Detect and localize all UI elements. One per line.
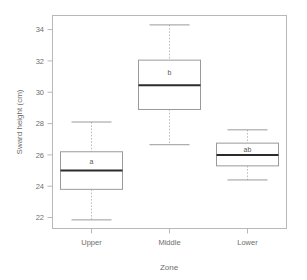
y-tick-label: 34 [36, 25, 44, 34]
y-axis-title: Sward height (cm) [15, 89, 24, 154]
boxplot-lower: ab [217, 130, 279, 180]
y-tick-label: 30 [36, 88, 44, 97]
boxplot-figure: 22242628303234 abab UpperMiddleLower Swa… [0, 0, 307, 280]
boxplot-middle: b [139, 25, 201, 145]
x-axis-ticks [92, 229, 248, 234]
y-tick-label: 24 [36, 182, 44, 191]
significance-letter: b [168, 69, 172, 76]
boxes-layer: abab [61, 25, 279, 220]
x-group-label-upper: Upper [81, 238, 102, 247]
y-tick-label: 22 [36, 213, 44, 222]
y-tick-label: 32 [36, 57, 44, 66]
boxplot-upper: a [61, 122, 123, 220]
x-group-label-middle: Middle [158, 238, 180, 247]
significance-letter: a [90, 158, 94, 165]
y-axis-tick-labels: 22242628303234 [36, 25, 44, 222]
significance-letter: ab [244, 146, 252, 153]
x-axis-title: Zone [160, 263, 179, 272]
x-axis-group-labels: UpperMiddleLower [81, 238, 258, 247]
x-group-label-lower: Lower [237, 238, 258, 247]
plot-canvas: 22242628303234 abab UpperMiddleLower Swa… [0, 0, 307, 280]
y-tick-label: 28 [36, 119, 44, 128]
y-tick-label: 26 [36, 151, 44, 160]
y-axis-ticks [48, 30, 53, 218]
